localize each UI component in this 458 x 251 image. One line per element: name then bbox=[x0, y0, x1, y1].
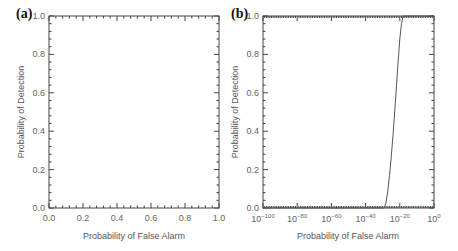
panel-b-y-axis-title: Probability of Detection bbox=[230, 66, 240, 159]
y-tick-label: 0.2 bbox=[246, 165, 259, 175]
y-tick-label: 0.4 bbox=[246, 126, 259, 136]
y-tick-label: 0.6 bbox=[246, 88, 259, 98]
panel-b-x-axis-title: Probability of False Alarm bbox=[297, 231, 399, 241]
x-tick-label: 100 bbox=[427, 213, 441, 224]
panel-b: (b) 0.0 0.2 0.4 0.6 0.8 1.0 10−100 10−80… bbox=[0, 0, 458, 251]
x-tick-label: 10−80 bbox=[287, 213, 308, 224]
y-tick-label: 0.8 bbox=[246, 49, 259, 59]
panel-b-roc-curve bbox=[263, 16, 434, 208]
y-tick-label: 1.0 bbox=[246, 11, 259, 21]
panel-b-plot: 0.0 0.2 0.4 0.6 0.8 1.0 10−100 10−80 10−… bbox=[0, 0, 458, 251]
x-tick-label: 10−40 bbox=[355, 213, 376, 224]
panel-b-yticks: 0.0 0.2 0.4 0.6 0.8 1.0 bbox=[246, 11, 259, 213]
panel-b-frame bbox=[263, 16, 434, 208]
x-tick-label: 10−100 bbox=[251, 213, 275, 224]
x-tick-label: 10−60 bbox=[321, 213, 342, 224]
panel-b-xticks: 10−100 10−80 10−60 10−40 10−20 100 bbox=[251, 213, 441, 224]
x-tick-label: 10−20 bbox=[390, 213, 411, 224]
y-tick-label: 0.0 bbox=[246, 203, 259, 213]
panel-b-ticks bbox=[263, 16, 434, 208]
